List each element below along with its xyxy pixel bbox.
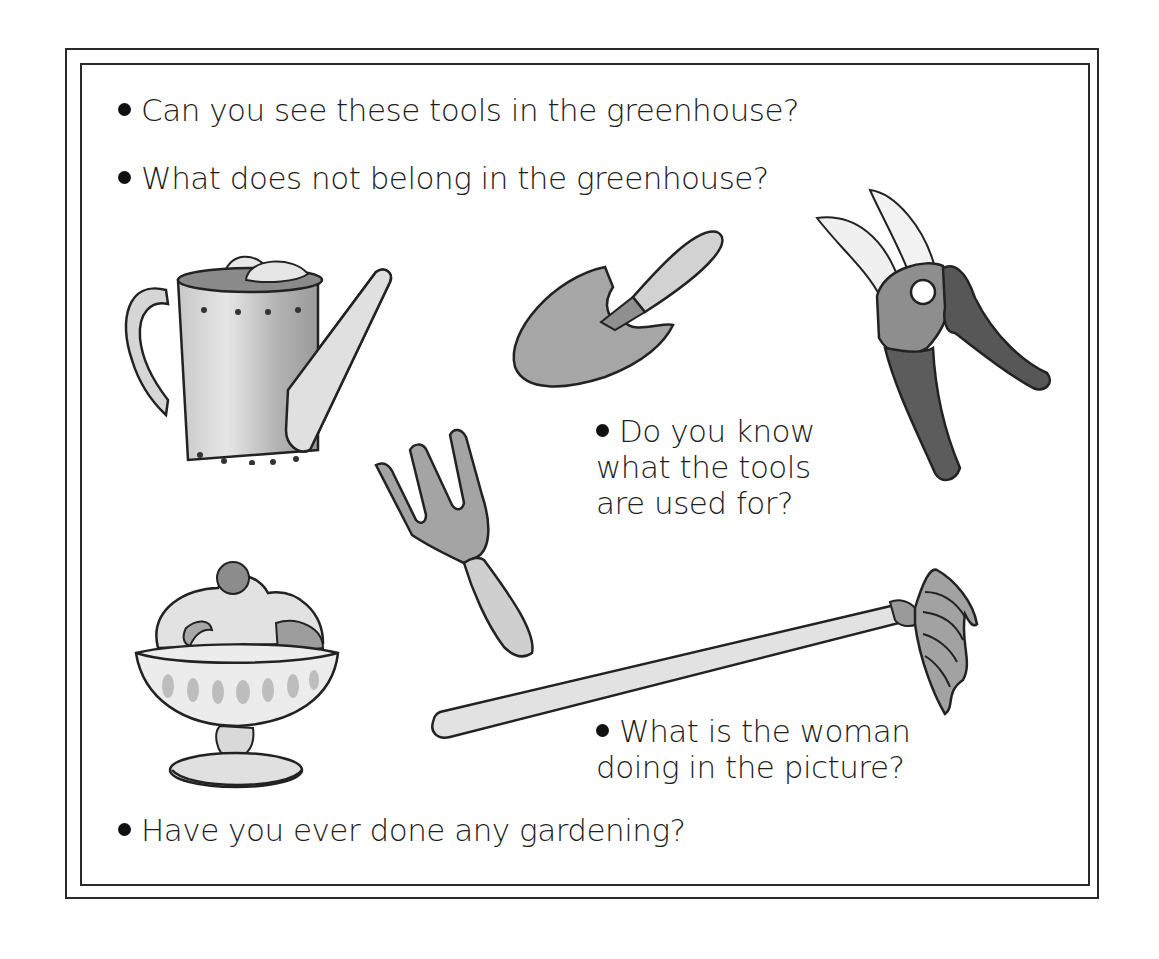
- ice-cream-sundae-icon: [128, 558, 343, 793]
- bullet-icon: [118, 171, 131, 184]
- rake-icon: [425, 562, 995, 742]
- watering-can-icon: [118, 250, 403, 465]
- question-see-tools: Can you see these tools in the greenhous…: [118, 92, 799, 128]
- trowel-icon: [505, 222, 735, 397]
- bullet-icon: [596, 424, 609, 437]
- pruning-shears-icon: [815, 188, 1065, 488]
- bullet-icon: [118, 103, 131, 116]
- question-not-belong: What does not belong in the greenhouse?: [118, 160, 769, 196]
- question-tools-used-for: Do you know what the tools are used for?: [596, 413, 815, 521]
- question-done-gardening: Have you ever done any gardening?: [118, 812, 686, 848]
- bullet-icon: [118, 823, 131, 836]
